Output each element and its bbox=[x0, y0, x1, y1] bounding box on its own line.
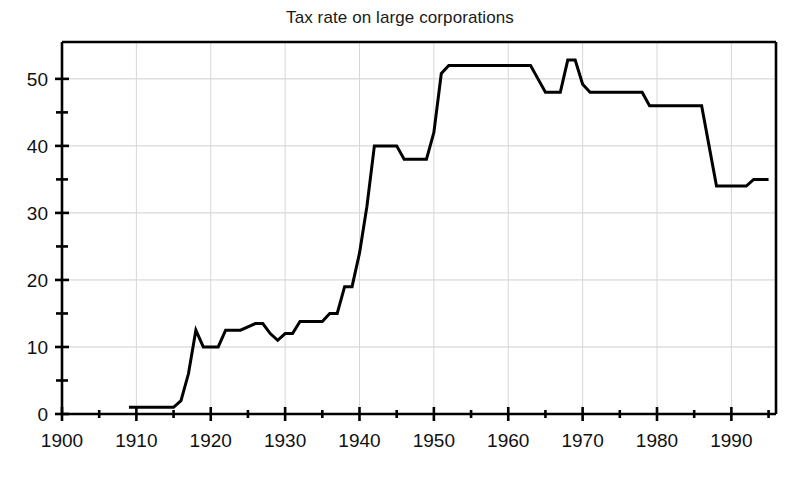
plot-frame bbox=[62, 42, 776, 414]
chart-container: Tax rate on large corporations 190019101… bbox=[0, 0, 800, 488]
y-tick-label: 30 bbox=[27, 203, 48, 224]
chart-plot: 1900191019201930194019501960197019801990… bbox=[0, 0, 800, 488]
x-tick-label: 1920 bbox=[190, 430, 232, 451]
x-tick-label: 1990 bbox=[710, 430, 752, 451]
y-tick-label: 50 bbox=[27, 69, 48, 90]
x-tick-label: 1910 bbox=[115, 430, 157, 451]
x-axis-tick-labels: 1900191019201930194019501960197019801990 bbox=[41, 430, 753, 451]
y-axis-tick-labels: 01020304050 bbox=[27, 69, 48, 425]
x-tick-label: 1900 bbox=[41, 430, 83, 451]
x-tick-label: 1960 bbox=[487, 430, 529, 451]
y-tick-label: 0 bbox=[37, 404, 48, 425]
y-tick-label: 40 bbox=[27, 136, 48, 157]
data-series-line bbox=[129, 60, 769, 407]
x-tick-label: 1980 bbox=[636, 430, 678, 451]
y-tick-label: 10 bbox=[27, 337, 48, 358]
gridlines bbox=[62, 42, 776, 414]
x-tick-label: 1970 bbox=[561, 430, 603, 451]
series-line-tax-rate bbox=[129, 60, 769, 407]
x-tick-label: 1940 bbox=[338, 430, 380, 451]
x-tick-label: 1950 bbox=[413, 430, 455, 451]
y-tick-label: 20 bbox=[27, 270, 48, 291]
x-tick-label: 1930 bbox=[264, 430, 306, 451]
